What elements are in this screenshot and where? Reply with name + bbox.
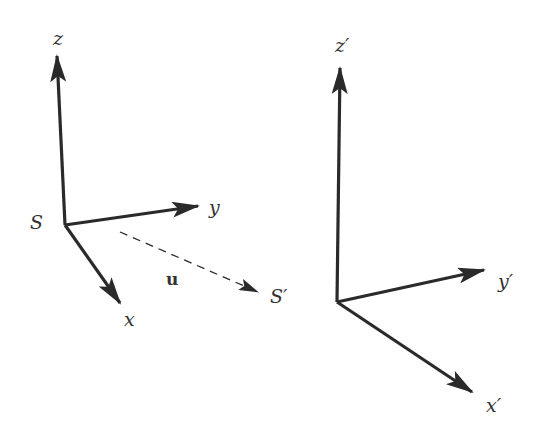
z-axis-label: z: [52, 27, 64, 49]
x-axis: [65, 225, 120, 303]
velocity-label: u: [166, 269, 178, 289]
velocity-vector: u: [120, 232, 258, 292]
x-prime-axis-label: x′: [486, 394, 502, 416]
frame-s-prime: z′ S′ y′ x′: [270, 34, 514, 416]
frame-s-label: S: [30, 211, 43, 233]
frame-s-prime-label: S′: [270, 285, 288, 307]
z-axis: [57, 56, 65, 225]
diagram-canvas: z S y x u z′ S′ y′ x′: [0, 0, 552, 448]
y-prime-axis-label: y′: [497, 270, 514, 292]
x-axis-label: x: [124, 308, 135, 330]
z-prime-axis-label: z′: [334, 34, 350, 56]
z-prime-axis: [337, 68, 340, 302]
x-prime-axis: [337, 302, 472, 392]
velocity-dashed-arrow: [120, 232, 258, 292]
y-prime-axis: [337, 270, 484, 302]
frames-diagram: z S y x u z′ S′ y′ x′: [0, 0, 552, 448]
y-axis-label: y: [208, 196, 220, 218]
frame-s: z S y x: [30, 27, 220, 330]
y-axis: [65, 206, 198, 225]
